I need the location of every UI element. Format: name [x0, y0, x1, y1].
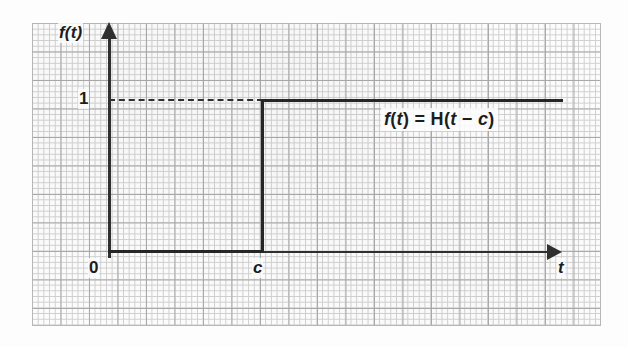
equation-annotation: f(t) = H(t − c) [381, 108, 498, 131]
y-axis-line [108, 36, 111, 258]
step-jump-at-c [261, 99, 264, 253]
step-segment-one [261, 99, 563, 102]
equation-close-paren-2: ) [488, 109, 494, 129]
dashed-guide-line-at-one [109, 99, 263, 101]
x-axis-label: t [557, 258, 565, 278]
step-function-figure: f(t) 1 0 c t f(t) = H(t − c) [0, 0, 628, 347]
graph-paper-background [32, 23, 601, 326]
equation-c: c [478, 109, 488, 129]
y-axis-label: f(t) [58, 23, 83, 43]
y-axis-arrow-icon [101, 22, 117, 39]
y-tick-label-one: 1 [78, 89, 89, 109]
equation-equals: = [409, 109, 430, 129]
equation-heaviside-h: H [431, 109, 444, 129]
equation-minus: − [457, 109, 478, 129]
step-segment-zero [108, 250, 264, 253]
x-tick-label-c: c [252, 258, 263, 278]
origin-label-zero: 0 [88, 258, 99, 278]
